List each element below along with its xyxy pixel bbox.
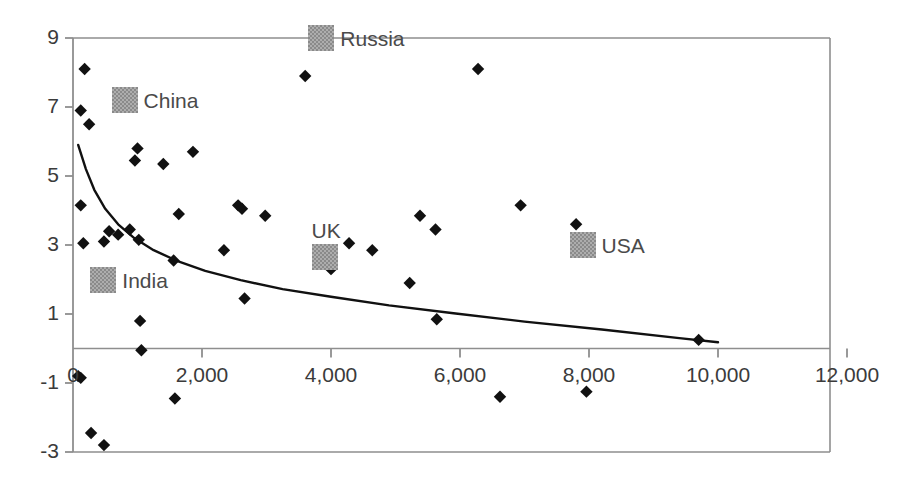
annotation-swatch-china: [112, 87, 138, 113]
trend-curve: [78, 145, 718, 342]
axes-group: [65, 38, 847, 452]
annotation-swatch-india: [90, 267, 116, 293]
plot-canvas: [0, 0, 906, 480]
scatter-chart: 97531-1-3 02,0004,0006,0008,00010,00012,…: [0, 0, 906, 480]
annotation-swatch-usa: [570, 232, 596, 258]
annotation-swatch-russia: [308, 25, 334, 51]
annotation-swatch-uk: [312, 244, 338, 270]
